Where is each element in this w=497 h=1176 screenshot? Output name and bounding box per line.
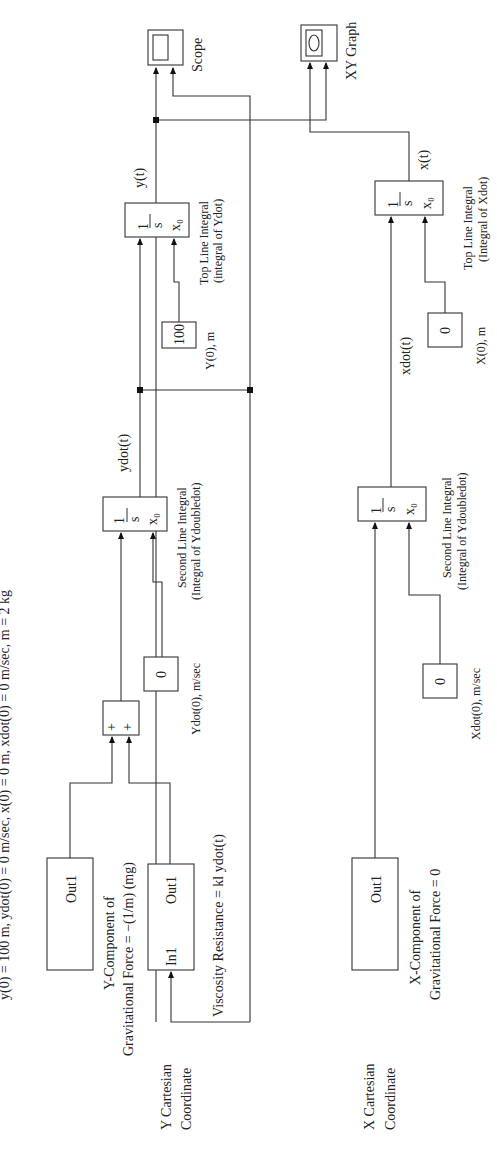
y-ic-label: Y(0), m (203, 331, 217, 370)
viscosity-caption: Viscosity Resistance = kl ydot(t) (211, 834, 227, 1017)
x-initial-condition-block[interactable]: 0 (428, 313, 462, 347)
sum-block[interactable]: + + (103, 701, 139, 735)
x-gravity-force-block[interactable]: Out1 (352, 858, 398, 970)
xdot-ic-value: 0 (433, 678, 448, 685)
sum-sign-2: + (120, 723, 135, 731)
x-ic-wire (425, 217, 445, 313)
ydot-signal-label: ydot(t) (116, 434, 132, 472)
y-top-integrator[interactable]: 1 s x₀ (125, 203, 189, 237)
integrator-ic-port: x₀ (168, 219, 183, 231)
xy-graph-screen-icon (306, 30, 322, 56)
integrator-denominator: s (127, 517, 142, 522)
y-initial-condition-block[interactable]: 100 (162, 322, 196, 348)
xdot-ic-label: Xdot(0), m/sec (469, 668, 483, 740)
x-ic-value: 0 (438, 327, 453, 334)
viscosity-in-port: In1 (164, 947, 179, 966)
viscosity-out-port: Out1 (164, 876, 179, 904)
x-coordinate-label-1: X Cartesian (362, 1064, 377, 1130)
integrator-numerator: 1 (136, 223, 151, 230)
y-second-integrator[interactable]: 1 s x₀ (103, 497, 167, 531)
xy-graph-label: XY Graph (344, 22, 359, 80)
x-gravity-out-port: Out1 (369, 875, 384, 903)
integrator-numerator: 1 (369, 507, 384, 514)
simulink-diagram: y(0) = 100 m, ydot(0) = 0 m/sec, x(0) = … (0, 0, 497, 1176)
scope-screen-icon (153, 35, 168, 60)
ydot-ic-value: 0 (154, 671, 169, 678)
y-to-xy-wire (156, 63, 326, 120)
x-top-integrator-caption-2: (Integral of Xdot) (476, 177, 490, 262)
y-gravity-out-port: Out1 (64, 875, 79, 903)
integrator-ic-port: x₀ (402, 503, 417, 515)
branch-point (153, 117, 159, 123)
x-top-integrator[interactable]: 1 s x₀ (375, 181, 443, 215)
x-second-integrator[interactable]: 1 s x₀ (358, 487, 426, 521)
y-ic-wire (174, 239, 179, 322)
y-gravity-caption-1: Y-Component of (102, 896, 117, 990)
viscosity-to-sum-wire (129, 737, 170, 864)
ydot-ic-wire (153, 533, 162, 657)
y-second-integrator-caption-2: (Integral of Ydoubledot) (189, 482, 203, 600)
y-second-integrator-caption-1: Second Line Integral (175, 487, 189, 588)
branch-point (137, 387, 143, 393)
ydot-ic-label: Ydot(0), m/sec (189, 663, 203, 735)
x-gravity-caption-1: X-Component of (408, 889, 423, 985)
scope-block[interactable]: Scope (148, 30, 205, 72)
x-top-integrator-caption-1: Top Line Integral (461, 186, 475, 270)
x-second-integrator-caption-2: (Integral of Ydoubledot) (455, 472, 469, 590)
gravity-to-sum-wire (70, 737, 112, 858)
y-signal-label: y(t) (132, 167, 148, 188)
x-second-integrator-caption-1: Second Line Integral (440, 477, 454, 578)
y-top-integrator-caption-2: (integral of Ydot) (211, 199, 225, 283)
integrator-ic-port: x₀ (419, 197, 434, 209)
integrator-numerator: 1 (112, 517, 127, 524)
diagram-title: y(0) = 100 m, ydot(0) = 0 m/sec, x(0) = … (0, 590, 13, 1000)
y-coordinate-label-2: Coordinate (179, 1068, 194, 1130)
x-ic-label: X(0), m (474, 326, 488, 365)
integrator-ic-port: x₀ (145, 513, 160, 525)
integrator-numerator: 1 (386, 201, 401, 208)
xdot-ic-wire (409, 523, 440, 664)
scope-label: Scope (190, 38, 205, 72)
y-coordinate-label-1: Y Cartesian (159, 1064, 174, 1130)
viscosity-resistance-block[interactable]: Out1 In1 (148, 864, 194, 970)
y-gravity-force-block[interactable]: Out1 (47, 858, 93, 970)
y-gravity-caption-2: Gravitational Force = −(1/m) (mg) (121, 862, 137, 1056)
y-ic-value: 100 (172, 324, 187, 345)
sum-sign-1: + (104, 723, 119, 731)
y-top-integrator-caption-1: Top Line Integral (197, 201, 211, 285)
ydot-initial-condition-block[interactable]: 0 (144, 657, 178, 691)
integrator-denominator: s (150, 223, 165, 228)
integrator-denominator: s (400, 201, 415, 206)
xdot-initial-condition-block[interactable]: 0 (423, 664, 457, 698)
xdot-signal-label: xdot(t) (398, 337, 414, 375)
x-coordinate-label-2: Coordinate (383, 1068, 398, 1130)
integrator-denominator: s (383, 507, 398, 512)
x-to-xy-wire (310, 63, 409, 181)
branch-point (247, 387, 253, 393)
x-signal-label: x(t) (416, 149, 432, 170)
x-gravity-caption-2: Gravitational Force = 0 (428, 869, 443, 1000)
